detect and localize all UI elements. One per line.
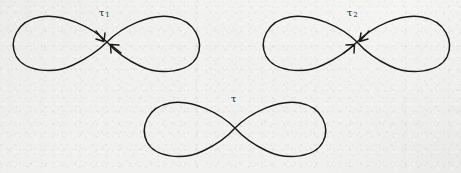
arrowhead-tau-2-upper-right bbox=[360, 31, 370, 42]
lemniscate-tau-1-right-lobe bbox=[107, 16, 199, 71]
lemniscate-tau-left-lobe bbox=[144, 102, 235, 156]
label-tau-2: τ2 bbox=[347, 8, 358, 19]
lemniscate-tau-1-left-lobe bbox=[13, 16, 107, 70]
arrowhead-tau-1-lower-right bbox=[111, 45, 122, 54]
figure-page: τ1 τ2 τ bbox=[0, 0, 461, 173]
lemniscate-tau-2-right-lobe bbox=[357, 16, 449, 71]
lemniscate-tau-1 bbox=[13, 16, 199, 71]
lemniscate-tau bbox=[144, 102, 325, 156]
lemniscate-diagram-canvas bbox=[0, 0, 461, 173]
label-tau: τ bbox=[231, 94, 237, 105]
label-tau-2-symbol: τ bbox=[347, 7, 353, 18]
label-tau-symbol: τ bbox=[231, 93, 237, 104]
arrowhead-tau-1-upper-left bbox=[96, 31, 105, 42]
lemniscate-tau-2-left-lobe bbox=[263, 16, 357, 70]
lemniscate-tau-right-lobe bbox=[235, 102, 326, 156]
label-tau-1-symbol: τ bbox=[99, 7, 105, 18]
label-tau-2-subscript: 2 bbox=[353, 11, 358, 19]
label-tau-1-subscript: 1 bbox=[105, 11, 110, 19]
label-tau-1: τ1 bbox=[99, 8, 110, 19]
arrowhead-tau-2-lower-left bbox=[344, 45, 355, 54]
lemniscate-tau-2 bbox=[263, 16, 449, 71]
